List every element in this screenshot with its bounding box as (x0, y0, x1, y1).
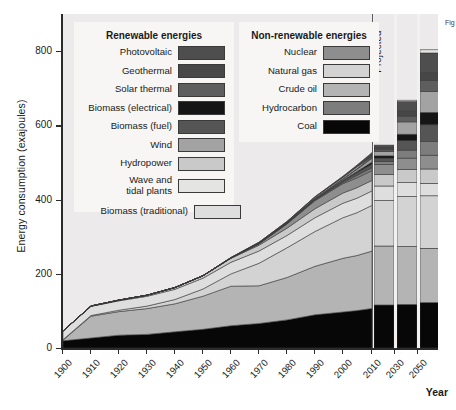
y-tick-mark (56, 348, 61, 349)
legend-item-swatch (194, 205, 241, 219)
y-axis-title: Energy consumption (exajoules) (15, 51, 27, 301)
legend-item-swatch (178, 64, 225, 78)
legend-item[interactable]: Nuclear (239, 46, 379, 60)
legend-item-swatch (178, 46, 225, 60)
legend-item-swatch (178, 138, 225, 152)
x-tick-label: 1950 (186, 357, 215, 386)
x-tick-label: 1960 (214, 357, 243, 386)
x-tick-mark (417, 349, 418, 354)
legend-item-swatch (178, 83, 225, 97)
y-tick-mark (56, 51, 61, 52)
x-tick-mark (62, 349, 63, 354)
legend-item-label: Solar thermal (115, 84, 172, 95)
x-tick-label: 1990 (298, 357, 327, 386)
x-tick-mark (230, 349, 231, 354)
y-tick-mark (56, 125, 61, 126)
x-tick-label: 2010 (355, 357, 384, 386)
legend-item-swatch (178, 101, 225, 115)
legend-item-swatch (323, 46, 370, 60)
y-tick-mark (56, 274, 61, 275)
legend-item[interactable]: Photovoltaic (74, 46, 234, 60)
legend-item[interactable]: Hydrocarbon (239, 101, 379, 115)
legend-item-label: Nuclear (284, 47, 317, 58)
legend-item-swatch (178, 120, 225, 134)
x-tick-mark (258, 349, 259, 354)
x-tick-mark (371, 349, 372, 354)
x-tick-label: 1970 (242, 357, 271, 386)
legend-item[interactable]: Natural gas (239, 64, 379, 78)
legend-item-swatch (323, 101, 370, 115)
y-tick-mark (56, 200, 61, 201)
legend-renewable-items: PhotovoltaicGeothermalSolar thermalBioma… (74, 46, 234, 197)
y-tick-label: 0 (18, 343, 52, 353)
x-tick-mark (314, 349, 315, 354)
legend-item-swatch (323, 64, 370, 78)
y-tick-label: 400 (18, 195, 52, 205)
x-tick-mark (202, 349, 203, 354)
legend-item-label: Coal (297, 121, 317, 132)
legend-item-label: Wind (150, 140, 172, 151)
legend-item-label: Biomass (fuel) (111, 121, 172, 132)
x-tick-label: 1980 (270, 357, 299, 386)
legend-item-swatch (323, 120, 370, 134)
legend-item-label: Photovoltaic (120, 47, 172, 58)
x-tick-label: 1930 (130, 357, 159, 386)
legend-item-label: Biomass (traditional) (101, 206, 188, 217)
energy-consumption-figure: Energy consumption (exajoules) 020040060… (0, 0, 456, 410)
legend-item[interactable]: Wave andtidal plants (74, 175, 234, 196)
legend-item-swatch (178, 157, 225, 171)
legend-item-label: Natural gas (268, 66, 317, 77)
y-tick-label: 200 (18, 269, 52, 279)
legend-item[interactable]: Geothermal (74, 64, 234, 78)
legend-item-label: Geothermal (122, 66, 172, 77)
x-tick-mark (118, 349, 119, 354)
x-tick-label: 2030 (378, 357, 407, 386)
x-tick-mark (90, 349, 91, 354)
legend-item-swatch (323, 83, 370, 97)
x-tick-label: 1910 (74, 357, 103, 386)
y-tick-label: 800 (18, 46, 52, 56)
projected-bar-2020 (397, 100, 417, 348)
x-tick-label: 1940 (158, 357, 187, 386)
legend-renewable-energies: Renewable energies PhotovoltaicGeotherma… (74, 22, 234, 212)
legend-nonrenewable-items: NuclearNatural gasCrude oilHydrocarbonCo… (239, 46, 379, 134)
projected-bar-2010 (374, 145, 394, 348)
x-tick-mark (342, 349, 343, 354)
legend-item-label: Hydrocarbon (262, 103, 317, 114)
legend-item[interactable]: Hydropower (74, 157, 234, 171)
legend-item[interactable]: Crude oil (239, 83, 379, 97)
y-axis-line (61, 14, 63, 349)
x-tick-mark (146, 349, 147, 354)
x-tick-label: 2050 (401, 357, 430, 386)
y-tick-label: 600 (18, 120, 52, 130)
projected-bar-2030 (420, 50, 438, 348)
legend-item[interactable]: Coal (239, 120, 379, 134)
legend-item-label: Wave andtidal plants (126, 175, 172, 196)
legend-nonrenewable-title: Non-renewable energies (239, 22, 379, 41)
x-tick-mark (394, 349, 395, 354)
x-tick-mark (286, 349, 287, 354)
legend-item-label: Crude oil (279, 84, 317, 95)
legend-renewable-title: Renewable energies (74, 22, 234, 41)
legend-item[interactable]: Solar thermal (74, 83, 234, 97)
legend-item[interactable]: Biomass (electrical) (74, 101, 234, 115)
x-tick-label: 2000 (326, 357, 355, 386)
x-axis-title: Year (426, 386, 448, 398)
legend-item-swatch (178, 179, 225, 193)
caption-fragment: Fig (445, 18, 456, 27)
legend-item[interactable]: Biomass (traditional) (66, 205, 250, 219)
x-tick-label: 1920 (102, 357, 131, 386)
x-tick-mark (174, 349, 175, 354)
legend-nonrenewable-energies: Non-renewable energies NuclearNatural ga… (239, 22, 379, 142)
legend-item[interactable]: Wind (74, 138, 234, 152)
projected-bars (374, 50, 438, 348)
legend-item-label: Hydropower (120, 158, 172, 169)
legend-item-label: Biomass (electrical) (88, 103, 172, 114)
x-tick-label: 1900 (46, 357, 75, 386)
legend-item[interactable]: Biomass (fuel) (74, 120, 234, 134)
